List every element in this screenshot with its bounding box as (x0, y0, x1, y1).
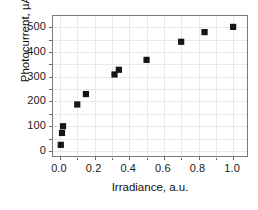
tick-y (49, 52, 53, 53)
data-point-marker (59, 130, 65, 136)
tick-x-minor (112, 158, 113, 161)
y-tick-label: 400 (27, 45, 46, 57)
data-point-marker (201, 29, 207, 35)
data-point-marker (230, 24, 236, 30)
data-point-marker (58, 142, 64, 148)
tick-y (49, 126, 53, 127)
y-axis-tick-labels: 0100200300400500 (0, 0, 46, 210)
tick-y (49, 101, 53, 102)
tick-x-minor (181, 158, 182, 161)
tick-y-minor (49, 114, 52, 115)
y-tick-label: 200 (27, 94, 46, 106)
tick-x-minor (216, 158, 217, 161)
tick-y-minor (49, 64, 52, 65)
tick-y-minor (49, 89, 52, 90)
tick-y-minor (49, 139, 52, 140)
y-tick-label: 100 (27, 119, 46, 131)
data-point-marker (60, 123, 66, 129)
data-point-marker (178, 39, 184, 45)
tick-x (199, 156, 200, 160)
x-tick-label: 0.4 (120, 162, 136, 174)
tick-y (49, 27, 53, 28)
tick-x (164, 156, 165, 160)
x-tick-label: 0.0 (51, 162, 67, 174)
plot-area (52, 15, 248, 157)
tick-x (233, 156, 234, 160)
y-tick-label: 300 (27, 70, 46, 82)
y-tick-label: 500 (27, 20, 46, 32)
y-tick-label: 0 (40, 144, 46, 156)
data-point-marker (143, 57, 149, 63)
data-point-marker (116, 67, 122, 73)
tick-x (95, 156, 96, 160)
tick-x-minor (77, 158, 78, 161)
data-point-marker (83, 91, 89, 97)
tick-y (49, 151, 53, 152)
x-axis-label: Irradiance, a.u. (52, 181, 248, 193)
data-point-marker (74, 101, 80, 107)
chart-figure: Photocurrent, µA 0100200300400500 0.00.2… (0, 0, 258, 210)
tick-y-minor (49, 40, 52, 41)
x-tick-label: 1.0 (224, 162, 240, 174)
x-tick-label: 0.8 (190, 162, 206, 174)
x-tick-label: 0.6 (155, 162, 171, 174)
x-tick-label: 0.2 (86, 162, 102, 174)
tick-x-minor (147, 158, 148, 161)
tick-x (60, 156, 61, 160)
data-points-layer (53, 16, 247, 156)
tick-x (129, 156, 130, 160)
tick-y (49, 77, 53, 78)
